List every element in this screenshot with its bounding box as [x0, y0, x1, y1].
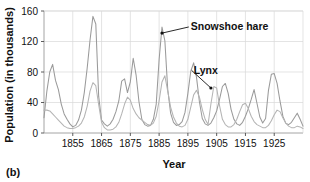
x-tick-label: 1855: [62, 138, 85, 149]
y-tick-label: 160: [21, 6, 38, 17]
x-tick-label: 1905: [206, 138, 229, 149]
hare-lynx-population-chart: 18551865187518851895190519151925 0408012…: [0, 0, 310, 182]
annotation-anchor-dot: [209, 86, 212, 89]
annotation-label: Snowshoe hare: [191, 20, 269, 32]
y-tick-label: 120: [21, 36, 38, 47]
x-tick-label: 1915: [234, 138, 257, 149]
panel-label: (b): [6, 166, 20, 178]
y-tick-label: 40: [27, 97, 39, 108]
x-tick-label: 1925: [263, 138, 286, 149]
x-tick-label: 1885: [148, 138, 171, 149]
x-tick-label: 1865: [90, 138, 113, 149]
x-axis-title: Year: [162, 158, 186, 170]
y-tick-label: 80: [27, 67, 39, 78]
y-axis-title: Population (in thousands): [3, 7, 15, 143]
x-tick-label: 1875: [119, 138, 142, 149]
annotation-anchor-dot: [160, 32, 163, 35]
figure-panel-b: 18551865187518851895190519151925 0408012…: [0, 0, 310, 182]
y-tick-label: 0: [32, 128, 38, 139]
x-tick-label: 1895: [177, 138, 200, 149]
annotation-label: Lynx: [194, 64, 218, 76]
